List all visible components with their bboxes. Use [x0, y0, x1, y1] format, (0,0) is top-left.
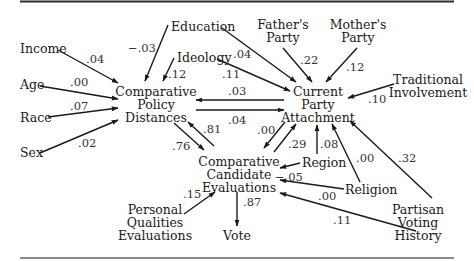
coef-religion-cce: .00	[318, 189, 336, 203]
node-religion: Religion	[345, 182, 397, 197]
coef-pvh-cce: .11	[333, 213, 351, 227]
coef-sex-cpd: .02	[78, 136, 96, 150]
node-cpd-line3: Distances	[125, 110, 187, 125]
coef-father-cpa: .22	[300, 53, 318, 67]
node-region: Region	[302, 155, 346, 170]
coef-cpd-cce: .76	[172, 139, 190, 153]
coef-cpa-cce: .00	[257, 123, 275, 137]
coef-religion-cpa: .00	[356, 151, 374, 165]
node-sex: Sex	[20, 145, 43, 160]
coef-income-cpd: .04	[86, 52, 104, 66]
coef-pqe-cce: .15	[183, 187, 201, 201]
node-education: Education	[171, 19, 235, 34]
coef-cpd-cpa: .04	[228, 113, 246, 127]
coef-cpa-cpd: .03	[228, 84, 246, 98]
node-fathers-party-line2: Party	[266, 30, 300, 45]
node-race: Race	[20, 110, 52, 125]
coef-edu-cpd: −.03	[128, 41, 156, 55]
coef-region-cpa: .08	[320, 137, 338, 151]
path-diagram: Education Father's Party Mother's Party …	[0, 0, 474, 261]
coef-region-cce: −.05	[275, 170, 303, 184]
coef-trad-cpa: .10	[368, 92, 386, 106]
node-pqe-line3: Evaluations	[118, 228, 192, 243]
coef-ideo-cpa: .11	[222, 67, 240, 81]
coef-cce-cpd: .81	[203, 122, 221, 136]
node-vote: Vote	[222, 228, 251, 243]
coef-race-cpd: .07	[70, 99, 88, 113]
node-traditional-involvement-line2: Involvement	[389, 85, 467, 100]
edge-region-cce	[280, 163, 300, 168]
node-cce-line3: Evaluations	[202, 180, 276, 195]
node-mothers-party-line2: Party	[341, 30, 375, 45]
node-pvh-line3: History	[395, 228, 443, 243]
node-ideology: Ideology	[177, 50, 232, 65]
coef-cce-vote: .87	[243, 195, 261, 209]
coef-edu-cpa: .04	[233, 47, 251, 61]
coef-pvh-cpa: .32	[398, 151, 416, 165]
coef-mother-cpa: .12	[346, 60, 364, 74]
coef-cce-cpa: .29	[288, 137, 306, 151]
node-income: Income	[20, 41, 67, 56]
node-cpa-line3: Attachment	[280, 110, 355, 125]
node-age: Age	[19, 77, 44, 92]
coef-age-cpd: .00	[70, 75, 88, 89]
coef-ideo-cpd: .12	[168, 67, 186, 81]
